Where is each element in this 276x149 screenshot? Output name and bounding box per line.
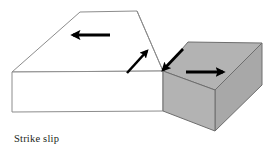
strike-slip-figure: Strike slip [0, 0, 276, 149]
left-block-top-face [12, 11, 163, 72]
left-block [12, 11, 163, 112]
left-block-front-face [12, 71, 163, 112]
block-diagram-svg [0, 0, 276, 149]
figure-caption: Strike slip [14, 132, 59, 145]
